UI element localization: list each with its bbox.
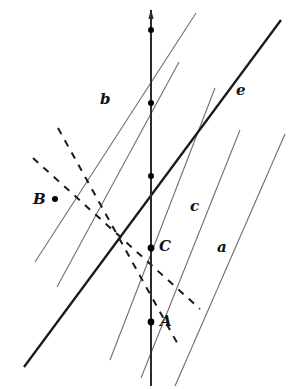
label-line-b: b [100,92,111,107]
point-C [148,245,155,252]
point-dot-second [148,100,154,106]
label-line-a: a [217,240,227,255]
label-point-A: A [160,314,172,329]
point-B [52,196,58,202]
point-dot-top [148,27,154,33]
diagram-figure: b e c a A B C [0,0,295,389]
point-dot-third [148,173,154,179]
label-point-B: B [33,192,46,207]
label-line-c: c [190,199,199,214]
point-A [148,319,155,326]
label-point-C: C [159,239,171,254]
label-line-e: e [236,83,246,98]
